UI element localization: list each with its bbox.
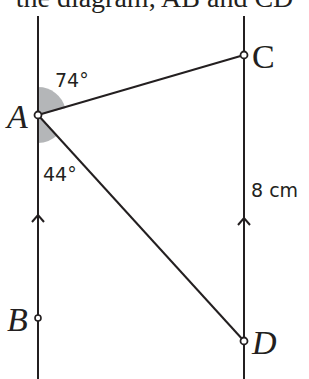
segment-ad [38, 115, 244, 341]
geometry-diagram: A B C D 74° 44° 8 cm [0, 0, 309, 379]
angle-label-upper: 74° [55, 69, 89, 91]
label-a: A [5, 98, 28, 135]
label-c: C [252, 38, 275, 75]
point-a-icon [35, 112, 42, 119]
label-d: D [251, 324, 277, 361]
diagram-stage: the diagram, AB and CD A B C D 74° 44° 8… [0, 0, 309, 379]
point-c-icon [241, 52, 248, 59]
length-label-cd: 8 cm [251, 179, 298, 201]
point-b-icon [35, 315, 41, 321]
point-d-icon [241, 338, 248, 345]
angle-label-lower: 44° [43, 163, 77, 185]
label-b: B [7, 301, 28, 338]
